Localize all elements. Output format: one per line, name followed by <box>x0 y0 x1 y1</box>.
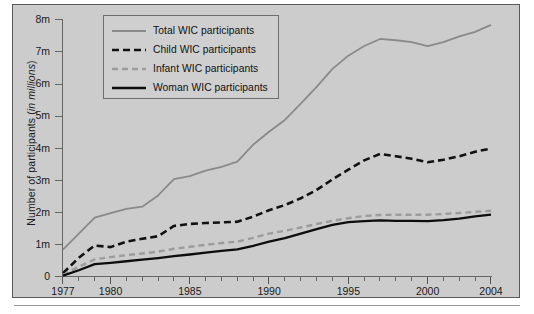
y-tick-mark <box>55 84 63 85</box>
legend-swatch-total <box>112 26 146 36</box>
x-tick-mark-minor <box>411 277 412 281</box>
footer-divider <box>14 305 520 306</box>
x-tick-mark-minor <box>459 277 460 281</box>
x-tick-mark-minor <box>253 277 254 281</box>
y-tick-mark <box>55 19 63 20</box>
y-tick-mark <box>55 180 63 181</box>
x-tick-mark-minor <box>142 277 143 281</box>
chart-legend: Total WIC participantsChild WIC particip… <box>103 15 279 99</box>
x-tick-mark-minor <box>316 277 317 281</box>
x-tick-label: 1985 <box>178 285 201 297</box>
y-tick-label-text: 8m <box>10 14 50 25</box>
legend-label-infant: Infant WIC participants <box>153 63 258 74</box>
x-tick-mark-minor <box>332 277 333 281</box>
y-tick-label-text: 7m <box>10 46 50 57</box>
x-tick-mark-major <box>268 277 269 284</box>
x-tick-label: 1977 <box>51 285 74 297</box>
x-tick-label: 2004 <box>479 285 502 297</box>
legend-item-total: Total WIC participants <box>104 21 278 40</box>
legend-label-total: Total WIC participants <box>153 25 254 36</box>
y-tick-mark <box>55 244 63 245</box>
y-tick-mark <box>55 116 63 117</box>
x-tick-mark-minor <box>364 277 365 281</box>
legend-label-woman: Woman WIC participants <box>153 82 268 93</box>
x-tick-mark-major <box>189 277 190 284</box>
x-tick-label: 2000 <box>416 285 439 297</box>
x-tick-mark-major <box>62 277 63 284</box>
x-tick-mark-minor <box>126 277 127 281</box>
y-tick-label-text: 3m <box>10 175 50 186</box>
x-tick-mark-minor <box>94 277 95 281</box>
y-axis-ticks: 8m7m6m5m4m3m2m1m0 <box>0 0 63 314</box>
x-tick-mark-minor <box>205 277 206 281</box>
legend-label-child: Child WIC participants <box>153 44 256 55</box>
y-tick-label-text: 4m <box>10 143 50 154</box>
x-tick-mark-minor <box>395 277 396 281</box>
y-tick-label-text: 6m <box>10 78 50 89</box>
y-tick-mark <box>55 212 63 213</box>
x-tick-mark-major <box>427 277 428 284</box>
x-tick-mark-minor <box>78 277 79 281</box>
x-tick-label: 1980 <box>99 285 122 297</box>
y-tick-label-text: 1m <box>10 239 50 250</box>
legend-swatch-woman <box>112 83 146 93</box>
y-tick-label-text: 0 <box>10 271 50 282</box>
x-tick-mark-major <box>110 277 111 284</box>
legend-swatch-child <box>112 45 146 55</box>
x-tick-mark-minor <box>379 277 380 281</box>
legend-item-infant: Infant WIC participants <box>104 59 278 78</box>
y-tick-mark <box>55 51 63 52</box>
x-tick-mark-minor <box>284 277 285 281</box>
x-tick-mark-minor <box>173 277 174 281</box>
legend-item-child: Child WIC participants <box>104 40 278 59</box>
x-tick-label: 1990 <box>257 285 280 297</box>
y-tick-label-text: 5m <box>10 110 50 121</box>
x-tick-mark-major <box>348 277 349 284</box>
legend-swatch-infant <box>112 64 146 74</box>
x-tick-mark-major <box>490 277 491 284</box>
x-tick-mark-minor <box>237 277 238 281</box>
legend-item-woman: Woman WIC participants <box>104 78 278 97</box>
x-tick-mark-minor <box>443 277 444 281</box>
x-tick-mark-minor <box>221 277 222 281</box>
x-tick-mark-minor <box>475 277 476 281</box>
x-tick-label: 1995 <box>337 285 360 297</box>
y-tick-mark <box>55 148 63 149</box>
x-tick-mark-minor <box>300 277 301 281</box>
x-tick-mark-minor <box>158 277 159 281</box>
chart-figure: Number of participants (in millions) 8m7… <box>0 0 534 314</box>
y-tick-label-text: 2m <box>10 207 50 218</box>
